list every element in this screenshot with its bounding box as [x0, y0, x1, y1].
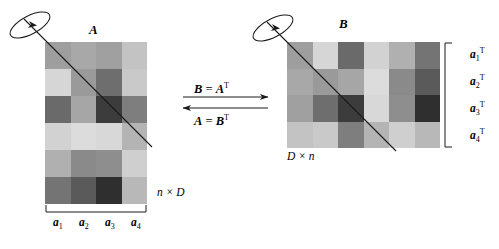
matrix-b-cell-r4-c4: [364, 122, 390, 149]
matrix-b-row-bracket: [445, 43, 452, 147]
matrix-b-cell-r4-c3: [338, 122, 364, 149]
matrix-a-cell-r6-c4: [122, 177, 148, 204]
matrix-b-cell-r1-c3: [338, 42, 364, 69]
matrix-b-row-label-4: a4T: [470, 127, 485, 144]
col-a4-sub: 4: [137, 222, 141, 231]
matrix-b-cell-r1-c6: [415, 42, 441, 69]
matrix-a-cell-r1-c4: [122, 42, 148, 69]
matrix-a-cell-r5-c1: [45, 150, 71, 177]
matrix-b-cell-r4-c5: [389, 122, 415, 149]
matrix-a-rotation-arrowhead: [28, 21, 37, 28]
matrix-a-cell-r6-c1: [45, 177, 71, 204]
equation-a-equals-b-transpose: A = BT: [194, 113, 229, 129]
row-b1-sup: T: [480, 46, 485, 55]
matrix-b-cell-r2-c1: [287, 69, 313, 96]
matrix-a-cell-r2-c4: [122, 69, 148, 96]
matrix-a-cell-r3-c2: [71, 96, 97, 123]
matrix-b-cell-r4-c1: [287, 122, 313, 149]
eq-bottom-operator: =: [202, 114, 215, 128]
row-b2-sub: 2: [476, 81, 480, 90]
row-b3-sup: T: [480, 100, 485, 109]
figure-canvas: A B n × D D × n B = AT A = BT a1 a2 a3 a…: [0, 0, 499, 249]
matrix-a-cell-r5-c4: [122, 150, 148, 177]
matrix-b-row-label-1: a1T: [470, 46, 485, 63]
matrix-b-cell-r3-c5: [389, 95, 415, 122]
matrix-b-cell-r4-c6: [415, 122, 441, 149]
matrix-a-cell-r4-c2: [71, 123, 97, 150]
eq-bottom-exponent: T: [224, 113, 229, 122]
matrix-a-cell-r1-c3: [96, 42, 122, 69]
matrix-b-cell-r3-c2: [313, 95, 339, 122]
col-a1-sub: 1: [59, 222, 63, 231]
matrix-a-rotation-ellipse: [6, 7, 53, 44]
eq-top-operator: =: [202, 82, 215, 96]
matrix-a-dimension-label: n × D: [157, 186, 185, 198]
matrix-a-cell-r1-c2: [71, 42, 97, 69]
matrix-a-cell-r2-c3: [96, 69, 122, 96]
matrix-a-column-label-2: a2: [79, 216, 89, 231]
matrix-b-cell-r2-c4: [364, 69, 390, 96]
matrix-a-cell-r3-c3: [96, 96, 122, 123]
matrix-b-cell-r3-c3: [338, 95, 364, 122]
matrix-a-cell-r3-c4: [122, 96, 148, 123]
matrix-b-dimension-label: D × n: [287, 150, 315, 162]
matrix-a-column-label-1: a1: [53, 216, 63, 231]
matrix-a-grid: [45, 42, 147, 204]
matrix-a-cell-r4-c4: [122, 123, 148, 150]
col-a3-sub: 3: [111, 222, 115, 231]
matrix-b-cell-r1-c4: [364, 42, 390, 69]
matrix-a-cell-r4-c1: [45, 123, 71, 150]
row-b2-sup: T: [480, 73, 485, 82]
matrix-a-cell-r2-c2: [71, 69, 97, 96]
matrix-a-cell-r6-c2: [71, 177, 97, 204]
matrix-b-label: B: [339, 16, 348, 32]
matrix-b-cell-r1-c5: [389, 42, 415, 69]
matrix-a-column-label-3: a3: [105, 216, 115, 231]
matrix-a-cell-r1-c1: [45, 42, 71, 69]
matrix-b-cell-r2-c6: [415, 69, 441, 96]
row-b1-sub: 1: [476, 54, 480, 63]
matrix-a-cell-r3-c1: [45, 96, 71, 123]
matrix-b-cell-r2-c2: [313, 69, 339, 96]
equation-b-equals-a-transpose: B = AT: [194, 81, 229, 97]
matrix-b-row-label-3: a3T: [470, 100, 485, 117]
matrix-b-row-label-2: a2T: [470, 73, 485, 90]
row-b4-sub: 4: [476, 135, 480, 144]
eq-top-rhs: A: [216, 82, 224, 96]
matrix-b-cell-r3-c6: [415, 95, 441, 122]
matrix-b-rotation-ellipse: [249, 10, 296, 47]
eq-top-exponent: T: [224, 81, 229, 90]
matrix-a-column-label-4: a4: [131, 216, 141, 231]
matrix-b-cell-r4-c2: [313, 122, 339, 149]
eq-bottom-rhs: B: [216, 114, 224, 128]
matrix-a-cell-r5-c3: [96, 150, 122, 177]
matrix-a-label: A: [89, 22, 98, 38]
col-a2-sub: 2: [85, 222, 89, 231]
matrix-b-grid: [287, 42, 440, 148]
matrix-b-cell-r3-c4: [364, 95, 390, 122]
row-b4-sup: T: [480, 127, 485, 136]
matrix-b-cell-r3-c1: [287, 95, 313, 122]
row-b3-sub: 3: [476, 108, 480, 117]
matrix-a-cell-r5-c2: [71, 150, 97, 177]
matrix-a-cell-r4-c3: [96, 123, 122, 150]
matrix-b-rotation-arrowhead: [271, 24, 280, 31]
matrix-a-column-bracket: [46, 205, 146, 212]
matrix-b-cell-r2-c3: [338, 69, 364, 96]
matrix-b-cell-r1-c2: [313, 42, 339, 69]
matrix-a-cell-r2-c1: [45, 69, 71, 96]
matrix-b-cell-r2-c5: [389, 69, 415, 96]
matrix-b-cell-r1-c1: [287, 42, 313, 69]
matrix-a-cell-r6-c3: [96, 177, 122, 204]
